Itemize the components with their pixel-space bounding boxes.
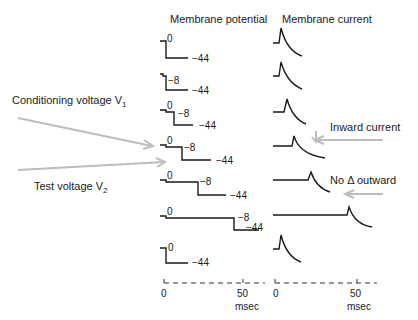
conditioning-arrow [18,118,152,146]
current-trace-1 [273,28,302,56]
label-v1: −8 [200,176,212,187]
inward-current-label: Inward current [330,121,400,133]
unit-label: msec [235,301,259,312]
tick-label-50: 50 [350,288,362,299]
label-v0: 0 [167,206,173,217]
tick-label-0: 0 [161,288,167,299]
current-trace-2 [273,62,302,89]
label-v2: −44 [216,155,233,166]
potential-trace-7: 0 −44 [160,242,209,268]
current-time-axis: 0 50 msec [273,279,377,312]
no-delta-outward-label: No Δ outward [330,174,396,186]
test-arrow [18,162,164,170]
label-v2: −44 [192,53,209,64]
potential-trace-2: −8 −44 [160,74,209,96]
voltage-clamp-diagram: Membrane potential Membrane current 0 −4… [0,0,418,320]
current-trace-3 [273,99,306,124]
potential-trace-3: 0 −8 −44 [160,100,216,131]
potential-trace-1: 0 −44 [160,33,209,64]
label-v2: −44 [246,222,263,233]
unit-label: msec [347,301,371,312]
label-v0: 0 [167,100,173,111]
current-trace-6 [273,207,372,227]
label-v1: 0 [167,33,173,44]
test-voltage-label: Test voltage V2 [34,180,108,195]
potential-waveform [160,248,188,263]
potential-column-title: Membrane potential [170,13,267,25]
potential-time-axis: 0 50 msec [161,279,265,312]
potential-trace-5: 0 −8 −44 [160,170,247,201]
label-v2: −44 [192,85,209,96]
tick-label-50: 50 [237,288,249,299]
potential-trace-6: 0 −8 −44 [160,206,263,233]
potential-waveform [160,41,188,58]
current-trace-7 [273,235,301,262]
tick-label-0: 0 [273,288,279,299]
label-v1: 0 [168,242,174,253]
label-v1: −8 [184,142,196,153]
label-v1: −8 [178,108,190,119]
conditioning-voltage-label: Conditioning voltage V1 [12,94,127,109]
label-v0: 0 [167,170,173,181]
label-v2: −44 [192,257,209,268]
potential-waveform [160,180,226,195]
current-column-title: Membrane current [282,13,372,25]
label-v2: −44 [230,190,247,201]
label-v0: 0 [167,135,173,146]
label-v1: −8 [168,75,180,86]
current-trace-5 [273,172,330,192]
label-v2: −44 [199,120,216,131]
potential-trace-4: 0 −8 −44 [160,135,233,166]
